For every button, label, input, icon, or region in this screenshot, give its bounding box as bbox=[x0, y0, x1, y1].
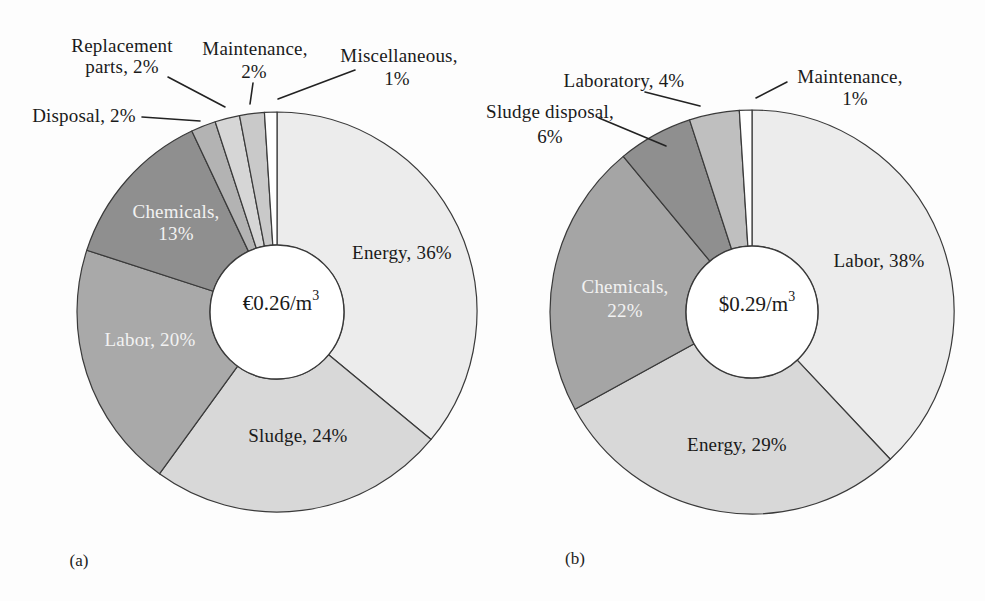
figure-treatment-cost-donut-charts: Energy, 36%Sludge, 24%Labor, 20%Chemical… bbox=[0, 0, 985, 601]
slice-label-labor: Labor, 20% bbox=[105, 329, 196, 350]
leader-line-laboratory bbox=[645, 92, 700, 106]
slice-label-disposal: Disposal, 2% bbox=[32, 105, 136, 126]
center-cost-label-a: €0.26/m3 bbox=[243, 288, 319, 316]
slice-label-sludge: Sludge, 24% bbox=[248, 425, 347, 446]
center-cost-label-b: $0.29/m3 bbox=[719, 289, 795, 317]
slice-label-labor: Labor, 38% bbox=[834, 250, 925, 271]
slice-label-energy: Energy, 29% bbox=[687, 434, 787, 455]
slice-label-miscellaneous: Miscellaneous, bbox=[340, 45, 457, 66]
pie-chart-a: Energy, 36%Sludge, 24%Labor, 20%Chemical… bbox=[32, 35, 477, 512]
slice-label-laboratory: Laboratory, 4% bbox=[564, 70, 685, 91]
slice-label-sludge-disposal: Sludge disposal, bbox=[486, 101, 614, 122]
subfigure-label-a: (a) bbox=[70, 551, 89, 571]
slice-label-replacement-parts: Replacement bbox=[71, 35, 173, 56]
donut-charts-canvas: Energy, 36%Sludge, 24%Labor, 20%Chemical… bbox=[0, 0, 985, 601]
slice-label-chemicals: Chemicals, bbox=[133, 201, 220, 222]
leader-line-maintenance bbox=[250, 83, 253, 104]
slice-label-chemicals: 22% bbox=[607, 300, 642, 321]
pie-chart-b: Labor, 38%Energy, 29%Chemicals,22%Sludge… bbox=[486, 66, 954, 515]
slice-label-miscellaneous: 1% bbox=[384, 68, 410, 89]
slice-label-sludge-disposal: 6% bbox=[537, 126, 563, 147]
slice-label-energy: Energy, 36% bbox=[352, 242, 452, 263]
leader-line-miscellaneous bbox=[278, 70, 355, 99]
slice-label-chemicals: Chemicals, bbox=[582, 276, 669, 297]
slice-label-chemicals: 13% bbox=[158, 223, 193, 244]
slice-label-maintenance: Maintenance, bbox=[202, 38, 307, 59]
leader-line-maintenance bbox=[756, 82, 787, 98]
slice-label-maintenance: 1% bbox=[842, 88, 868, 109]
slice-label-maintenance: 2% bbox=[241, 61, 267, 82]
slice-label-replacement-parts: parts, 2% bbox=[85, 56, 159, 77]
slice-label-maintenance: Maintenance, bbox=[797, 66, 902, 87]
leader-line-sludge-disposal bbox=[599, 118, 666, 146]
leader-line-replacement-parts bbox=[168, 77, 225, 107]
leader-line-disposal bbox=[142, 117, 200, 121]
subfigure-label-b: (b) bbox=[565, 549, 585, 569]
